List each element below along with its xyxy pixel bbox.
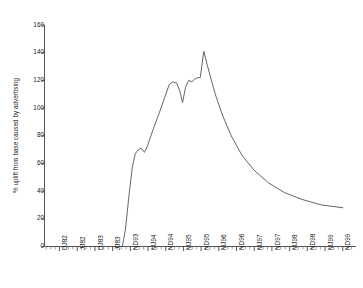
line-chart-plot [0, 0, 363, 288]
series-line-uplift [60, 51, 343, 246]
axis-lines [45, 25, 357, 247]
x-axis-ticks [46, 247, 351, 252]
chart-container: % uplift from base caused by advertising… [0, 0, 363, 288]
